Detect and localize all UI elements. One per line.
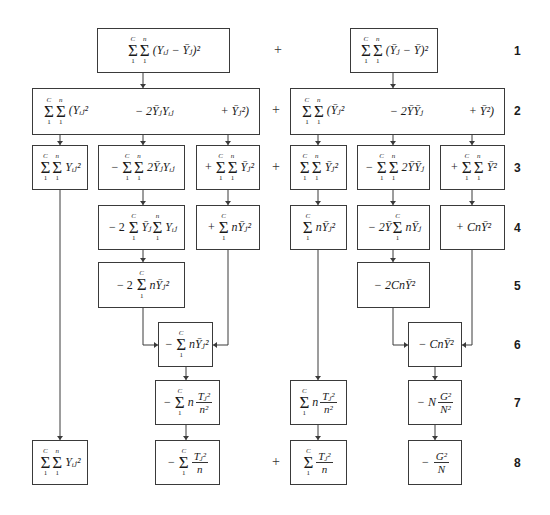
- box-row1-between-ss: CΣ1 nΣ1 (Ȳⱼ − Ȳ)²: [350, 28, 438, 73]
- box-row7-b: −CΣ1nTⱼ²n²: [155, 380, 220, 425]
- box-row1-within-ss: CΣ1 nΣ1 (Yᵢⱼ − Ȳⱼ)²: [97, 28, 230, 73]
- box-row8-d: CΣ1Tⱼ²n: [290, 440, 347, 485]
- row-label-4: 4: [514, 221, 521, 235]
- box-row4-b: − 2CΣ1ȲⱼnΣ1Yᵢⱼ: [98, 205, 185, 250]
- anova-derivation-diagram: CΣ1 nΣ1 (Yᵢⱼ − Ȳⱼ)² + CΣ1 nΣ1 (Ȳⱼ − Ȳ)² …: [0, 0, 550, 515]
- row-label-8: 8: [514, 456, 521, 470]
- sum-n: nΣ1: [140, 36, 150, 65]
- plus-sign: +: [272, 159, 280, 175]
- row-label-3: 3: [514, 161, 521, 175]
- box-row4-f: + CnȲ²: [440, 205, 505, 250]
- box-row3-d: CΣ1nΣ1Ȳⱼ²: [290, 145, 347, 190]
- box-row7-d: CΣ1nTⱼ²n²: [290, 380, 347, 425]
- box-row6-b: −CΣ1nȲⱼ²: [158, 322, 213, 367]
- row-label-2: 2: [514, 104, 521, 118]
- row-label-7: 7: [514, 396, 521, 410]
- box-row4-d: CΣ1nȲⱼ²: [290, 205, 347, 250]
- box-row8-e: −G²N: [408, 440, 462, 485]
- box-row7-e: − NG²N²: [408, 380, 462, 425]
- box-row2-within-expanded: CΣ1nΣ1(Yᵢⱼ² − 2ȲⱼYᵢⱼ + Ȳⱼ²): [32, 88, 260, 135]
- box-row8-a: CΣ1nΣ1Yᵢⱼ²: [32, 440, 88, 485]
- box-row3-b: −CΣ1nΣ12ȲⱼYᵢⱼ: [98, 145, 185, 190]
- row-label-5: 5: [514, 279, 521, 293]
- box-row4-c: +CΣ1nȲⱼ²: [196, 205, 260, 250]
- box-row6-e: − CnȲ²: [408, 322, 462, 367]
- box-row5-b: − 2CΣ1nȲⱼ²: [98, 262, 185, 308]
- box-row8-b: −CΣ1Tⱼ²n: [155, 440, 220, 485]
- box-row2-between-expanded: CΣ1nΣ1(Ȳⱼ² − 2ȲȲⱼ + Ȳ²): [290, 88, 505, 135]
- box-row3-a: CΣ1nΣ1Yᵢⱼ²: [32, 145, 88, 190]
- box-row5-e: − 2CnȲ²: [357, 262, 430, 308]
- box-row3-f: +CΣ1nΣ1Ȳ²: [440, 145, 505, 190]
- box-row3-e: −CΣ1nΣ12ȲȲⱼ: [357, 145, 430, 190]
- sum-c: CΣ1: [128, 36, 138, 65]
- plus-sign: +: [272, 454, 280, 470]
- connector-arrows: [0, 0, 550, 515]
- plus-sign: +: [272, 102, 280, 118]
- box-row4-e: − 2ȲCΣ1nȲⱼ: [357, 205, 430, 250]
- plus-sign: +: [274, 42, 282, 58]
- row-label-6: 6: [514, 338, 521, 352]
- row-label-1: 1: [514, 44, 521, 58]
- box-row3-c: +CΣ1nΣ1Ȳⱼ²: [196, 145, 260, 190]
